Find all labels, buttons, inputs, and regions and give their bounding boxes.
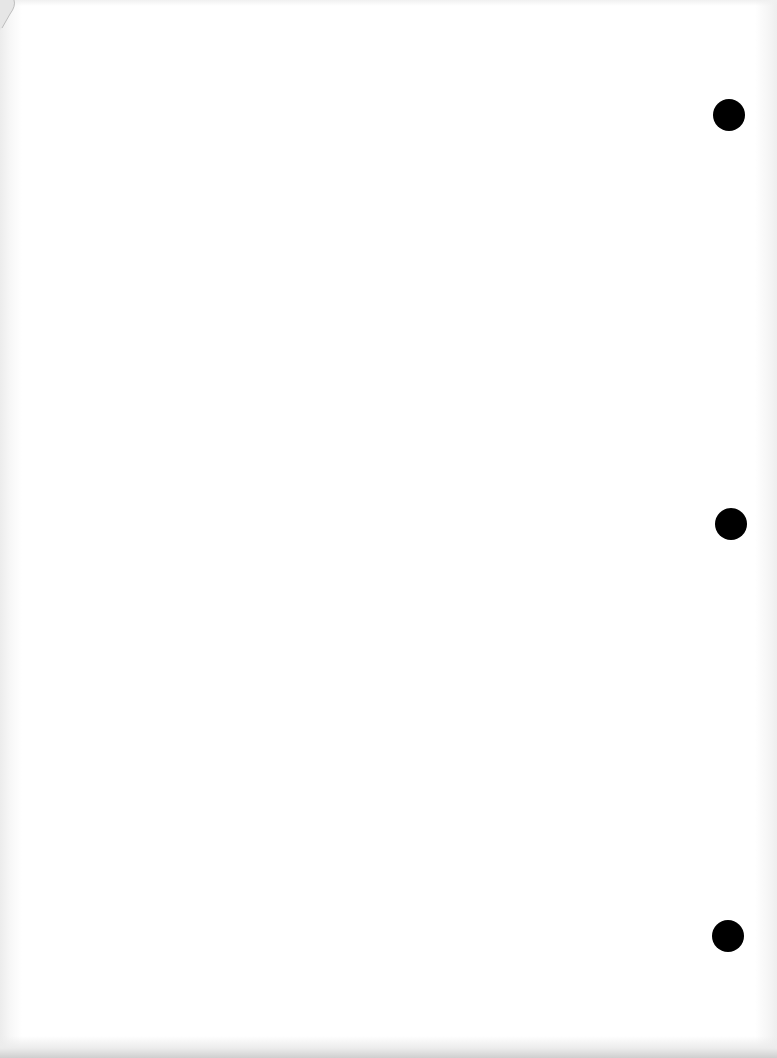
- punch-hole: [713, 99, 745, 131]
- folded-corner-icon: [0, 0, 22, 30]
- punch-hole: [712, 920, 744, 952]
- bottom-edge-shadow: [0, 1036, 777, 1058]
- punch-hole: [715, 508, 747, 540]
- top-edge-shadow: [0, 0, 777, 6]
- blank-page: [0, 0, 777, 1058]
